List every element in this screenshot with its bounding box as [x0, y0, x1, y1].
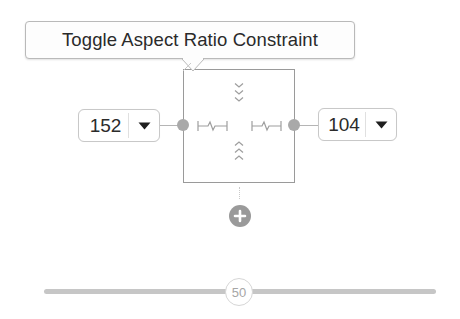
spring-icon[interactable]	[251, 119, 283, 133]
chevron-down-icon	[234, 96, 244, 103]
trailing-connector-line	[299, 125, 318, 126]
dropdown-arrow-button[interactable]	[129, 110, 159, 141]
trailing-constraint-dropdown[interactable]: 104	[318, 108, 397, 141]
constraint-view-box	[183, 69, 295, 183]
trailing-constraint-value[interactable]: 104	[319, 109, 365, 140]
bottom-connector-line	[239, 187, 241, 199]
chevron-down-icon	[234, 89, 244, 96]
tooltip-text: Toggle Aspect Ratio Constraint	[62, 29, 318, 51]
bottom-chevrons	[184, 140, 294, 161]
chevron-up-icon	[234, 140, 244, 147]
value-slider[interactable]: 50	[44, 280, 436, 304]
slider-thumb[interactable]: 50	[225, 278, 253, 306]
leading-constraint-value[interactable]: 152	[79, 110, 128, 141]
triangle-down-icon	[375, 121, 388, 129]
leading-anchor-dot[interactable]	[177, 119, 189, 131]
trailing-anchor-dot[interactable]	[288, 119, 300, 131]
dropdown-arrow-button[interactable]	[366, 109, 396, 140]
tooltip: Toggle Aspect Ratio Constraint	[25, 21, 355, 59]
chevron-up-icon	[234, 154, 244, 161]
leading-constraint-dropdown[interactable]: 152	[78, 109, 160, 142]
plus-icon	[233, 209, 247, 223]
tooltip-pointer	[182, 58, 204, 72]
top-chevrons	[184, 82, 294, 103]
triangle-down-icon	[138, 122, 151, 130]
chevron-down-icon	[234, 82, 244, 89]
add-constraint-button[interactable]	[229, 205, 251, 227]
spring-icon[interactable]	[197, 119, 229, 133]
leading-connector-line	[160, 125, 178, 126]
chevron-up-icon	[234, 147, 244, 154]
